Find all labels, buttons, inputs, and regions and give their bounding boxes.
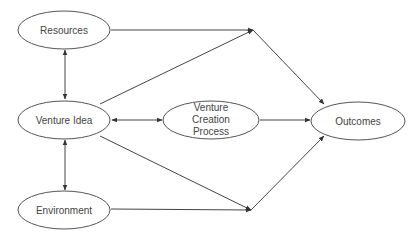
node-venture-idea-label: Venture Idea xyxy=(36,115,93,126)
node-resources: Resources xyxy=(18,11,110,49)
node-resources-label: Resources xyxy=(40,25,88,36)
node-environment: Environment xyxy=(18,191,110,229)
node-vcp-line-2: Creation xyxy=(192,114,230,125)
node-vcp-line-1: Venture xyxy=(194,102,229,113)
edge-venture-idea-junction-bottom xyxy=(100,136,251,210)
node-environment-label: Environment xyxy=(36,205,92,216)
edge-junction-top-outcomes xyxy=(253,30,324,104)
edge-venture-idea-junction-top xyxy=(100,30,253,104)
node-venture-creation-process: Venture Creation Process xyxy=(163,101,259,139)
edge-junction-bottom-outcomes xyxy=(251,136,324,210)
node-venture-idea: Venture Idea xyxy=(18,101,110,139)
edge-environment-junction-bottom xyxy=(111,209,251,210)
node-outcomes: Outcomes xyxy=(311,102,405,140)
node-vcp-line-3: Process xyxy=(193,126,229,137)
venture-creation-diagram: Resources Venture Idea Environment Ventu… xyxy=(0,0,419,238)
node-outcomes-label: Outcomes xyxy=(335,116,381,127)
